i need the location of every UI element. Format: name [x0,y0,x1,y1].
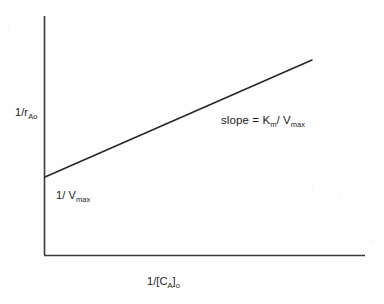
x-axis-label: 1/[CA]o [147,276,180,288]
y-axis-label-main: 1/r [15,106,28,118]
figure-container: 1/rAo 1/ Vmax slope = Km/ Vmax 1/[CA]o [0,0,384,304]
y-intercept-label: 1/ Vmax [56,190,90,202]
y-intercept-label-subscript: max [76,195,90,204]
scan-speck [338,196,340,198]
slope-annotation-subscript-m: m [270,120,276,129]
y-axis-label: 1/rAo [15,107,37,119]
x-axis-label-part1: 1/[C [147,275,168,287]
x-axis-label-subscript-o: o [176,281,180,290]
y-intercept-label-main: 1/ V [56,189,76,201]
scan-speck [370,240,372,242]
scan-speck [312,188,314,190]
slope-annotation: slope = Km/ Vmax [221,114,305,126]
y-axis-label-subscript: Ao [28,112,37,121]
slope-annotation-subscript-max: max [291,120,305,129]
plot-canvas [0,0,384,304]
slope-annotation-middle: / V [276,114,290,126]
scan-speck [8,28,10,30]
x-axis-label-subscript-a: A [168,281,173,290]
slope-annotation-prefix: slope = K [221,114,270,126]
